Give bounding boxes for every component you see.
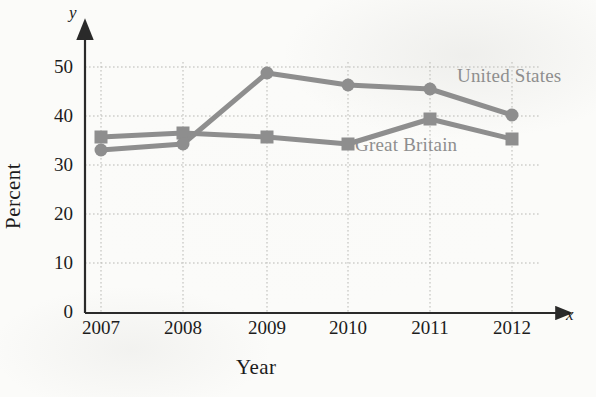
- series-label-great-britain: Great Britain: [355, 134, 457, 156]
- series-label-united-states: United States: [457, 65, 561, 87]
- gridlines-vertical: [101, 62, 512, 313]
- y-tick-label-20: 20: [33, 203, 73, 225]
- data-point-square: [424, 113, 437, 126]
- data-point-circle: [261, 67, 274, 80]
- y-tick-label-10: 10: [33, 252, 73, 274]
- y-axis-variable: y: [69, 3, 77, 23]
- y-tick-label-40: 40: [33, 105, 73, 127]
- y-axis-title: Percent: [1, 163, 26, 229]
- data-point-circle: [95, 144, 108, 157]
- x-tick-label-2011: 2011: [395, 317, 465, 339]
- x-tick-label-2007: 2007: [66, 317, 136, 339]
- data-point-square: [261, 131, 274, 144]
- y-tick-label-50: 50: [33, 56, 73, 78]
- x-axis-title: Year: [236, 355, 276, 380]
- x-tick-label-2008: 2008: [148, 317, 218, 339]
- gridlines-horizontal: [85, 67, 540, 263]
- data-point-circle: [342, 79, 355, 92]
- x-tick-label-2010: 2010: [313, 317, 383, 339]
- data-point-square: [95, 131, 108, 144]
- data-point-circle: [424, 83, 437, 96]
- data-point-square: [506, 133, 519, 146]
- y-tick-label-30: 30: [33, 154, 73, 176]
- data-point-square: [342, 138, 355, 151]
- x-axis-variable: x: [566, 305, 574, 325]
- x-tick-label-2009: 2009: [232, 317, 302, 339]
- data-point-circle: [506, 109, 519, 122]
- data-point-circle: [177, 138, 190, 151]
- x-tick-label-2012: 2012: [477, 317, 547, 339]
- line-chart: y x 50 40 30 20 10 0 2007 2008 2009 2010…: [0, 0, 596, 397]
